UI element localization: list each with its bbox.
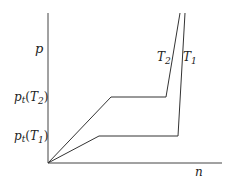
x-axis-label: n (195, 165, 203, 179)
curve-t2 (48, 13, 180, 163)
curve-t1 (48, 13, 185, 163)
curve-label-t2: T2 (157, 50, 171, 66)
curve-label-t1: T1 (183, 50, 197, 66)
y-tick-pt-t1: pt(T1) (14, 129, 48, 145)
phase-diagram: p n T2 T1 pt(T2) pt(T1) (0, 0, 231, 181)
y-tick-pt-t2: pt(T2) (14, 90, 48, 106)
y-axis-label: p (35, 41, 44, 56)
